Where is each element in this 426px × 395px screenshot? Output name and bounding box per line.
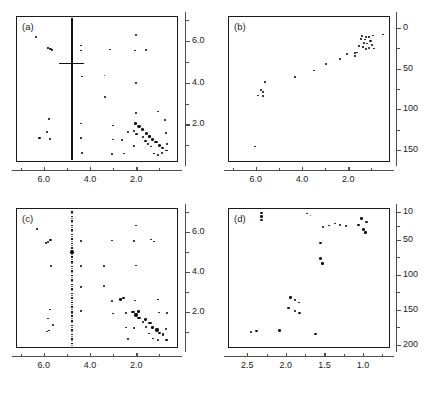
- data-point: [289, 296, 292, 298]
- data-point: [364, 231, 367, 233]
- x-major-tick-d: [363, 353, 364, 357]
- x-tick-label-d: 2.5: [229, 360, 265, 370]
- y-major-tick-d: [397, 212, 401, 213]
- x-minor-tick-d: [344, 354, 345, 357]
- data-point: [298, 312, 301, 314]
- data-point: [365, 221, 368, 223]
- y-minor-tick-d: [397, 257, 400, 258]
- data-point: [319, 257, 322, 260]
- panel-label-d: (d): [234, 213, 246, 224]
- y-minor-tick-d: [397, 226, 400, 227]
- y-tick-label-d: 50: [403, 234, 413, 244]
- y-major-tick-d: [397, 310, 401, 311]
- panel-d: (d)2.52.01.51.01050100150200: [0, 0, 426, 395]
- data-point: [260, 212, 263, 214]
- y-tick-label-d: 200: [403, 339, 418, 349]
- x-minor-tick-d: [305, 354, 306, 357]
- x-tick-label-d: 1.0: [345, 360, 381, 370]
- data-point: [360, 217, 363, 219]
- y-major-tick-d: [397, 240, 401, 241]
- nmr-figure-panel-grid: (a)6.04.02.02.04.06.0(b)6.04.02.00501001…: [0, 0, 426, 395]
- data-point: [321, 262, 324, 264]
- data-point: [345, 225, 347, 227]
- data-point: [314, 333, 317, 335]
- data-point: [339, 224, 341, 226]
- x-tick-label-d: 1.5: [306, 360, 342, 370]
- data-point: [322, 226, 325, 228]
- y-minor-tick-d: [397, 327, 400, 328]
- x-major-tick-d: [247, 353, 248, 357]
- x-tick-label-d: 2.0: [268, 360, 304, 370]
- y-tick-label-d: 10: [403, 206, 413, 216]
- x-major-tick-d: [286, 353, 287, 357]
- data-point: [260, 215, 263, 217]
- data-point: [260, 219, 263, 221]
- x-minor-tick-d: [382, 354, 383, 357]
- x-minor-tick-d: [267, 354, 268, 357]
- plot-frame-d: [228, 208, 390, 348]
- y-minor-tick-d: [397, 292, 400, 293]
- y-major-tick-d: [397, 275, 401, 276]
- y-tick-label-d: 100: [403, 269, 418, 279]
- data-point: [357, 224, 359, 226]
- x-major-tick-d: [324, 353, 325, 357]
- y-tick-label-d: 150: [403, 304, 418, 314]
- y-major-tick-d: [397, 345, 401, 346]
- x-axis-line-d: [224, 356, 394, 357]
